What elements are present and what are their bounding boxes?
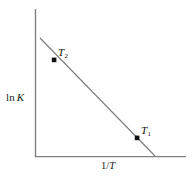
plot-canvas xyxy=(0,0,192,182)
data-point-label-t1-subscript: 1 xyxy=(147,130,151,138)
van-t-hoff-plot-figure: lnK 1/T T2 T1 xyxy=(0,0,192,182)
x-axis-label-variable: T xyxy=(109,160,115,171)
data-point-t2-marker xyxy=(52,58,57,63)
data-point-label-t2-subscript: 2 xyxy=(64,52,68,60)
y-axis-label-prefix: ln xyxy=(6,91,15,103)
data-point-label-t2: T2 xyxy=(58,47,68,58)
y-axis-label-variable: K xyxy=(15,91,24,103)
x-axis-label-numerator: 1/ xyxy=(101,160,109,171)
y-axis-label: lnK xyxy=(6,92,24,103)
data-point-t1-marker xyxy=(135,136,140,141)
data-point-label-t1: T1 xyxy=(141,125,151,136)
x-axis-label: 1/T xyxy=(101,161,115,172)
